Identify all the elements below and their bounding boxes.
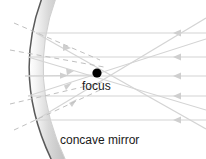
concave-mirror-diagram: focus concave mirror (0, 0, 206, 159)
arrowhead-ray-5 (173, 117, 181, 124)
surface-normal-2 (10, 50, 104, 67)
surface-normal-1 (14, 23, 100, 60)
reflected-ray-2 (28, 57, 206, 110)
focus-point-dot (92, 68, 101, 77)
concave-mirror-label: concave mirror (60, 134, 139, 146)
incoming-ray-arrowheads (173, 30, 181, 124)
reflected-ray-4 (28, 39, 206, 96)
arrowhead-ray-2 (173, 54, 181, 61)
reflected-rays (25, 18, 206, 129)
arrowhead-ray-3 (173, 73, 181, 80)
focus-label: focus (82, 80, 111, 92)
arrowhead-ray-4 (173, 93, 181, 100)
